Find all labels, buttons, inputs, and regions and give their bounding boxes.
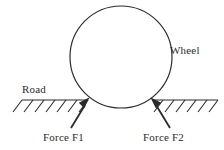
road-label: Road <box>22 83 46 95</box>
road-hatching-right <box>154 100 218 112</box>
diagram-canvas <box>0 0 224 150</box>
wheel-road-force-diagram: Wheel Road Force F1 Force F2 <box>0 0 224 150</box>
road-hatching-left <box>13 100 88 112</box>
force-f1-label: Force F1 <box>43 131 84 143</box>
wheel-label: Wheel <box>170 44 200 56</box>
wheel-circle <box>70 6 172 108</box>
force-f1-arrow <box>71 99 88 128</box>
force-f2-label: Force F2 <box>143 131 184 143</box>
